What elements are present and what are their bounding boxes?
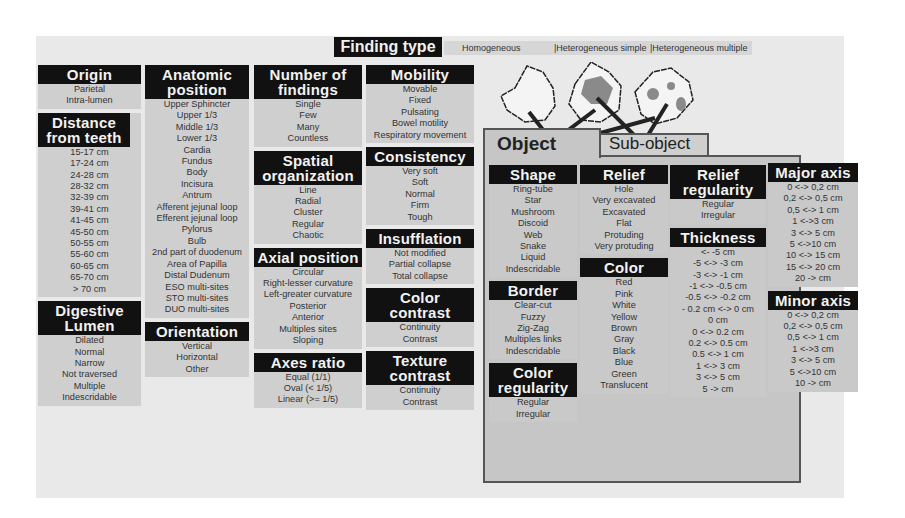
list-item[interactable]: Antrum (145, 190, 249, 201)
list-item[interactable]: Pulsating (366, 107, 474, 118)
list-item[interactable]: Pink (580, 289, 668, 300)
list-item[interactable]: STO multi-sites (145, 293, 249, 304)
list-item[interactable]: 10 <-> 15 cm (768, 250, 858, 261)
list-item[interactable]: Gray (580, 334, 668, 345)
list-item[interactable]: 24-28 cm (38, 170, 141, 181)
list-item[interactable]: Regular (254, 219, 362, 230)
list-item[interactable]: Flat (580, 218, 668, 229)
list-item[interactable]: Protuding (580, 230, 668, 241)
list-item[interactable]: Partial collapse (366, 259, 474, 270)
list-item[interactable]: 28-32 cm (38, 181, 141, 192)
list-item[interactable]: Horizontal (145, 352, 249, 363)
list-item[interactable]: Continuity (366, 385, 474, 396)
list-item[interactable]: 0 <-> 0,2 cm (768, 310, 858, 321)
list-item[interactable]: Equal (1/1) (254, 372, 362, 383)
list-item[interactable]: Multiple (38, 381, 141, 392)
list-item[interactable]: Mushroom (489, 207, 577, 218)
list-item[interactable]: Indescridable (38, 392, 141, 403)
list-item[interactable]: 0 <-> 0.2 cm (670, 327, 766, 338)
list-item[interactable]: 1 <->3 cm (768, 344, 858, 355)
list-item[interactable]: Hole (580, 184, 668, 195)
list-item[interactable]: 39-41 cm (38, 204, 141, 215)
list-item[interactable]: Dilated (38, 335, 141, 346)
list-item[interactable]: Fixed (366, 95, 474, 106)
finding-type-homogeneous[interactable]: Homogeneous (462, 41, 554, 55)
list-item[interactable]: Normal (366, 189, 474, 200)
list-item[interactable]: Distal Dudenum (145, 270, 249, 281)
list-item[interactable]: Multiples sites (254, 324, 362, 335)
list-item[interactable]: 1 <->3 cm (768, 216, 858, 227)
list-item[interactable]: 55-60 cm (38, 249, 141, 260)
list-item[interactable]: Discoid (489, 218, 577, 229)
list-item[interactable]: Vertical (145, 341, 249, 352)
list-item[interactable]: Contrast (366, 397, 474, 408)
list-item[interactable]: Movable (366, 84, 474, 95)
list-item[interactable]: Multiples links (489, 334, 577, 345)
list-item[interactable]: Fuzzy (489, 312, 577, 323)
list-item[interactable]: Tough (366, 212, 474, 223)
list-item[interactable]: Red (580, 277, 668, 288)
list-item[interactable]: ESO multi-sites (145, 282, 249, 293)
list-item[interactable]: 3 <-> 5 cm (768, 228, 858, 239)
list-item[interactable]: 10 -> cm (768, 378, 858, 389)
list-item[interactable]: - 0.2 cm <-> 0 cm (670, 304, 766, 315)
list-item[interactable]: Star (489, 195, 577, 206)
list-item[interactable]: Fundus (145, 156, 249, 167)
list-item[interactable]: -5 <-> -3 cm (670, 258, 766, 269)
list-item[interactable]: Contrast (366, 334, 474, 345)
list-item[interactable]: Intra-lumen (38, 95, 141, 106)
list-item[interactable]: Ring-tube (489, 184, 577, 195)
list-item[interactable]: Normal (38, 347, 141, 358)
list-item[interactable]: Sloping (254, 335, 362, 346)
list-item[interactable]: Narrow (38, 358, 141, 369)
list-item[interactable]: 2nd part of duodenum (145, 247, 249, 258)
list-item[interactable]: Other (145, 364, 249, 375)
list-item[interactable]: Snake (489, 241, 577, 252)
list-item[interactable]: Indescridable (489, 264, 577, 275)
list-item[interactable]: Zig-Zag (489, 323, 577, 334)
list-item[interactable]: 60-65 cm (38, 261, 141, 272)
list-item[interactable]: Chaotic (254, 230, 362, 241)
list-item[interactable]: Radial (254, 196, 362, 207)
list-item[interactable]: Liquid (489, 252, 577, 263)
list-item[interactable]: Cardia (145, 145, 249, 156)
list-item[interactable]: Black (580, 346, 668, 357)
list-item[interactable]: Translucent (580, 380, 668, 391)
list-item[interactable]: Respiratory movement (366, 130, 474, 141)
list-item[interactable]: Upper Sphincter (145, 99, 249, 110)
list-item[interactable]: Very excavated (580, 195, 668, 206)
list-item[interactable]: 65-70 cm (38, 272, 141, 283)
list-item[interactable]: Single (254, 99, 362, 110)
finding-type-heterogeneous-simple[interactable]: |Heterogeneous simple (554, 41, 650, 55)
list-item[interactable]: 0,5 <-> 1 cm (768, 332, 858, 343)
list-item[interactable]: Excavated (580, 207, 668, 218)
list-item[interactable]: Green (580, 369, 668, 380)
list-item[interactable]: Brown (580, 323, 668, 334)
list-item[interactable]: Cluster (254, 207, 362, 218)
list-item[interactable]: Irregular (670, 210, 766, 221)
list-item[interactable]: Yellow (580, 312, 668, 323)
list-item[interactable]: Afferent jejunal loop (145, 202, 249, 213)
list-item[interactable]: Area of Papilla (145, 259, 249, 270)
list-item[interactable]: 45-50 cm (38, 227, 141, 238)
list-item[interactable]: Linear (>= 1/5) (254, 394, 362, 405)
list-item[interactable]: Very soft (366, 166, 474, 177)
list-item[interactable]: Right-lesser curvature (254, 278, 362, 289)
list-item[interactable]: Line (254, 185, 362, 196)
list-item[interactable]: Blue (580, 357, 668, 368)
list-item[interactable]: Bulb (145, 236, 249, 247)
list-item[interactable]: 41-45 cm (38, 215, 141, 226)
list-item[interactable]: Posterior (254, 301, 362, 312)
list-item[interactable]: Incisura (145, 179, 249, 190)
list-item[interactable]: 0,5 <-> 1 cm (768, 205, 858, 216)
list-item[interactable]: Lower 1/3 (145, 133, 249, 144)
list-item[interactable]: 17-24 cm (38, 158, 141, 169)
list-item[interactable]: 20 -> cm (768, 273, 858, 284)
list-item[interactable]: -0.5 <-> -0.2 cm (670, 292, 766, 303)
list-item[interactable]: Countless (254, 133, 362, 144)
list-item[interactable]: Irregular (489, 409, 577, 420)
list-item[interactable]: 5 <->10 cm (768, 367, 858, 378)
list-item[interactable]: 0 <-> 0,2 cm (768, 182, 858, 193)
list-item[interactable]: 32-39 cm (38, 192, 141, 203)
list-item[interactable]: Clear-cut (489, 300, 577, 311)
